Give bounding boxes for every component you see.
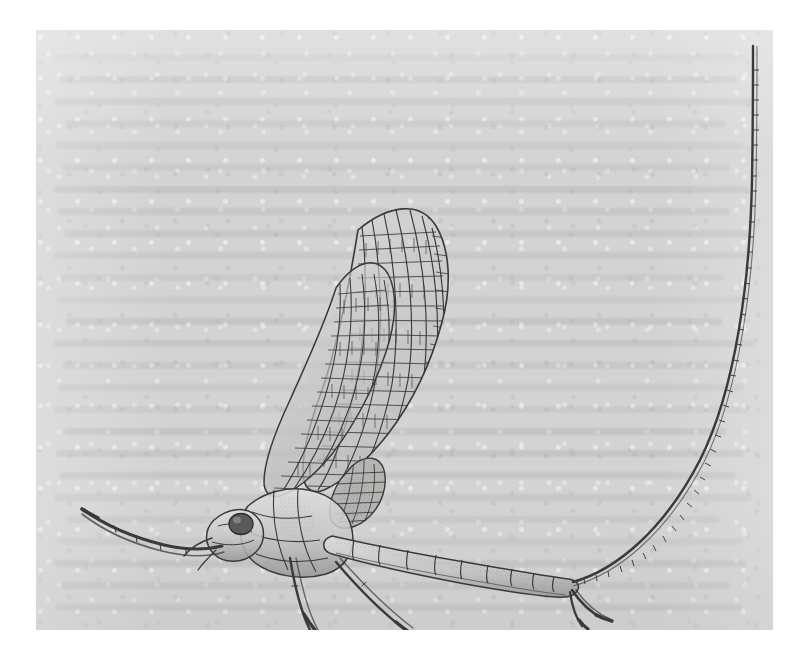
abdomen — [324, 536, 579, 597]
foreleg-extended — [82, 509, 224, 556]
figure-caption — [40, 640, 360, 656]
genital-forceps — [570, 590, 612, 629]
head — [184, 510, 264, 570]
figure-root — [0, 0, 803, 664]
illustration-plate — [36, 30, 773, 630]
mayfly-illustration — [36, 30, 773, 630]
compound-eye — [229, 514, 253, 535]
cercus-caudal-filament — [573, 46, 759, 586]
